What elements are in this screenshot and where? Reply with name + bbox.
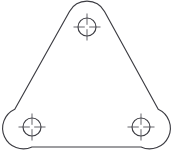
hole-bottom-left-group <box>19 114 46 141</box>
drawing-svg <box>0 0 174 161</box>
hole-top-group <box>74 14 101 41</box>
technical-drawing-canvas <box>0 0 174 161</box>
hole-bottom-right-group <box>128 114 155 141</box>
